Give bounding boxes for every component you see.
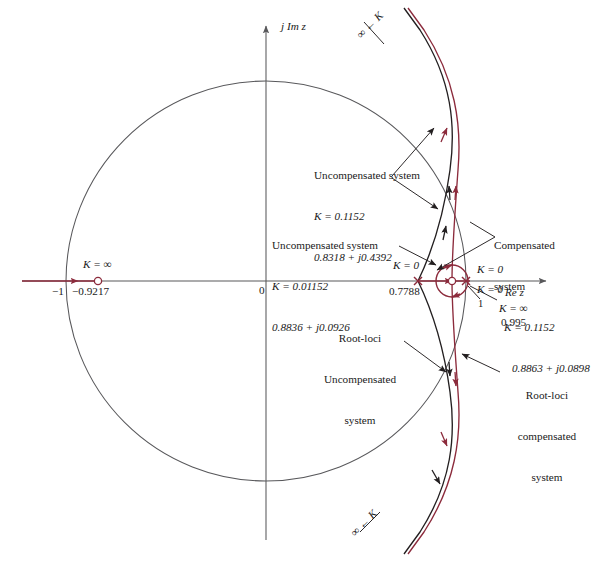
k-infinity-left-text: K = ∞ <box>83 258 112 270</box>
unit-pole-one-label: 1 <box>478 297 483 311</box>
minus-one-label: −1 <box>52 285 64 299</box>
marker-zero-left <box>94 277 101 284</box>
imaginary-axis-label: j Im z <box>281 20 306 34</box>
origin-label-text: 0 <box>259 284 265 296</box>
annotation-root-loci-compensated-line2: compensated <box>501 430 593 444</box>
root-locus-figure: j Im z Re z 0 −1 K = ∞ −0.9217 K = 0 0.7… <box>0 0 593 561</box>
k-infinity-left-label: K = ∞ <box>83 258 112 272</box>
zero-left-value-text: −0.9217 <box>72 285 109 297</box>
annotation-uncompensated-low-gain-line2: K = 0.01152 <box>272 280 328 292</box>
annotation-root-loci-compensated-line1: Root-loci <box>501 389 593 403</box>
asymptote-label-top-text: ∞ ← K <box>354 9 385 40</box>
annotation-root-loci-uncompensated: Root-loci Uncompensated system <box>304 305 416 455</box>
annotation-root-loci-compensated: Root-loci compensated system <box>501 362 593 512</box>
annotation-root-loci-uncompensated-line3: system <box>304 414 416 428</box>
annotation-root-loci-uncompensated-line2: Uncompensated <box>304 373 416 387</box>
annotation-uncompensated-high-gain-line1: Uncompensated system <box>314 169 420 183</box>
minus-one-label-text: −1 <box>52 285 64 297</box>
marker-zero-0995 <box>448 277 455 284</box>
asymptote-label-bottom-text: ∞ ← K <box>348 507 379 538</box>
annotation-compensated-line3: K = 0.1152 <box>504 321 555 333</box>
annotation-root-loci-compensated-line3: system <box>501 471 593 485</box>
imaginary-axis-label-text: j Im z <box>281 20 306 32</box>
annotation-uncompensated-low-gain-line1: Uncompensated system <box>272 239 378 253</box>
unit-pole-one-text: 1 <box>478 298 483 309</box>
annotation-root-loci-uncompensated-line1: Root-loci <box>304 332 416 346</box>
annotation-compensated-line1: Compensated <box>494 239 590 253</box>
origin-label: 0 <box>259 284 265 298</box>
annotation-compensated-line2: system <box>494 280 590 294</box>
zero-left-value-label: −0.9217 <box>72 285 109 299</box>
